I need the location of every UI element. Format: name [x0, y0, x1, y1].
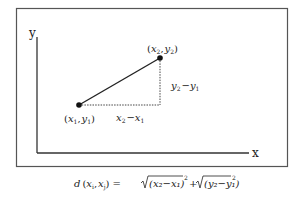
svg-text:d(xi,xj)=: d(xi,xj)=	[74, 178, 121, 191]
delta-x-label: x2−x1	[116, 112, 144, 124]
x-axis-label: x	[252, 146, 259, 160]
formula-term-1-exponent: 2	[184, 174, 188, 181]
formula-term-2-exponent: 2	[232, 174, 236, 181]
formula-equals: =	[112, 178, 120, 189]
diagram-frame	[17, 9, 288, 167]
formula-plus: +	[189, 178, 197, 189]
delta-y-label: y2−y1	[170, 80, 199, 92]
distance-segment	[79, 58, 160, 105]
formula-term-1: (x₂−x₁)	[149, 178, 185, 189]
y-axis-label: y	[28, 26, 36, 40]
formula-lhs: d	[74, 178, 80, 189]
point-1	[76, 102, 82, 108]
point-1-label: (x1,y1)	[64, 113, 95, 125]
point-2-label: (x2,y2)	[147, 43, 178, 55]
distance-diagram: y x (x2,y2) (x1,y1) x2−x1 y2−y1 d(xi,xj)…	[0, 0, 302, 197]
point-2	[157, 55, 163, 61]
distance-formula: d(xi,xj)= (x₂−x₁) 2 + (y₂−y₁) 2	[74, 174, 240, 191]
